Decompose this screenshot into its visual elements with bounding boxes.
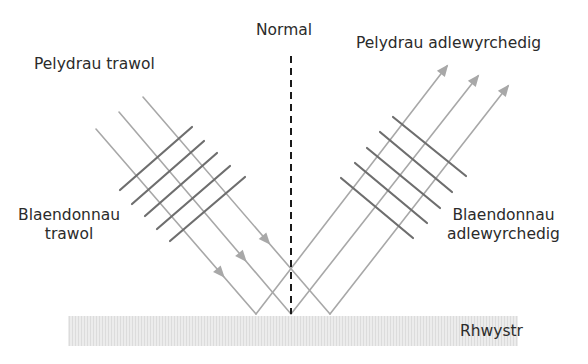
reflected-wavefront <box>367 148 440 208</box>
reflected-ray-arrow-icon <box>498 84 509 97</box>
reflected-wavefront <box>380 132 452 192</box>
reflected-wavefronts-label: Blaendonnau adlewyrchedig <box>447 206 560 244</box>
reflected-wavefront <box>341 178 413 238</box>
incident-wavefronts-label: Blaendonnau trawol <box>18 206 120 244</box>
reflected-ray <box>291 76 478 314</box>
incident-wavefronts-label-line1: Blaendonnau <box>18 206 120 225</box>
incident-ray <box>119 112 291 314</box>
reflected-wavefronts-label-line2: adlewyrchedig <box>447 225 560 244</box>
incident-ray <box>143 97 330 314</box>
reflected-wavefront <box>393 117 466 176</box>
reflected-wavefronts-label-line1: Blaendonnau <box>447 206 560 225</box>
reflected-wavefront <box>355 163 427 223</box>
normal-label: Normal <box>256 21 312 40</box>
barrier <box>68 316 518 346</box>
incident-wavefront <box>120 127 192 190</box>
incident-wavefronts-label-line2: trawol <box>18 225 120 244</box>
barrier-label: Rhwystr <box>460 322 523 341</box>
reflected-ray-arrow-icon <box>437 64 448 77</box>
incident-rays-label: Pelydrau trawol <box>34 55 155 74</box>
wavefronts-group <box>120 117 466 241</box>
reflected-rays-label: Pelydrau adlewyrchedig <box>356 34 541 53</box>
reflected-ray <box>330 86 508 314</box>
reflected-ray-arrow-icon <box>468 74 479 87</box>
